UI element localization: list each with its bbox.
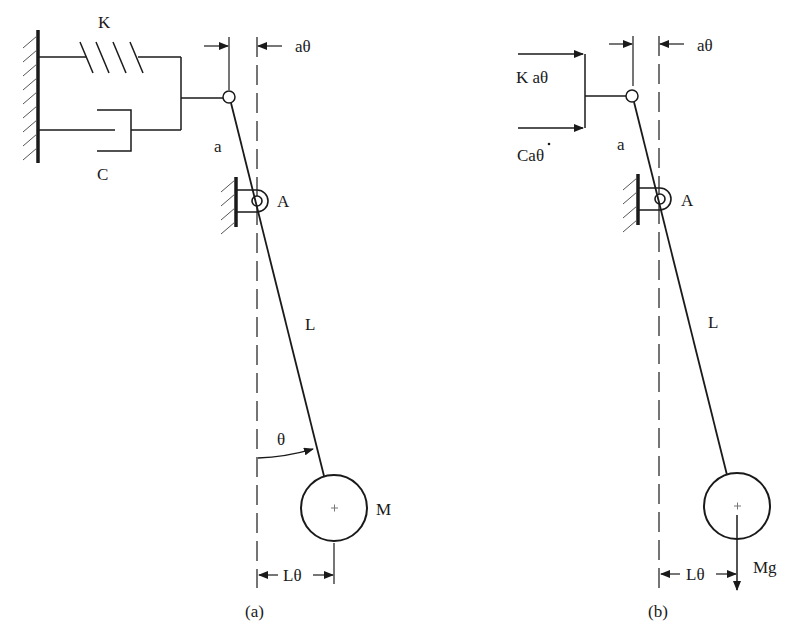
- angle-label: θ: [277, 430, 285, 449]
- damper-force-label: Caθ: [517, 146, 544, 165]
- weight-label: Mg: [753, 558, 777, 577]
- pivot-label-b: A: [681, 191, 694, 210]
- top-displacement-label-b: aθ: [697, 36, 713, 55]
- panel-b: K aθ Caθ aθ A a L: [516, 36, 777, 621]
- top-joint-b: [626, 90, 638, 102]
- bottom-displacement-label-b: Lθ: [686, 565, 705, 584]
- panel-b-caption: (b): [648, 602, 668, 621]
- long-arm-label: L: [305, 315, 315, 334]
- top-displacement-dimension-b: [609, 36, 684, 86]
- angle-arc: [258, 449, 313, 458]
- top-displacement-label: aθ: [295, 37, 311, 56]
- damper-label: C: [97, 165, 108, 184]
- long-arm-label-b: L: [708, 313, 718, 332]
- top-displacement-dimension: [204, 37, 282, 90]
- mass-label: M: [376, 500, 391, 519]
- spring-force-label: K aθ: [516, 68, 548, 87]
- top-joint: [223, 91, 235, 103]
- pendulum-rod: [231, 103, 324, 476]
- force-arrows: [518, 54, 626, 128]
- panel-a-caption: (a): [245, 602, 264, 621]
- short-arm-label-b: a: [617, 135, 625, 154]
- damper: [39, 110, 181, 151]
- panel-a: K C aθ: [23, 13, 391, 621]
- pivot-label: A: [277, 192, 290, 211]
- pendulum-diagram: K C aθ: [0, 0, 798, 634]
- pendulum-rod-b: [634, 102, 727, 475]
- spring: [39, 42, 181, 130]
- spring-label: K: [98, 13, 111, 32]
- bottom-displacement-label: Lθ: [283, 566, 302, 585]
- short-arm-label: a: [214, 137, 222, 156]
- ground-wall: [23, 30, 38, 163]
- damper-force-dot: [548, 143, 551, 146]
